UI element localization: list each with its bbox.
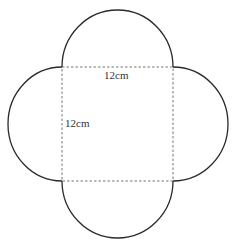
quatrefoil-figure [0,0,233,243]
right-semicircle [173,67,228,181]
left-side-label: 12cm [65,117,89,129]
bottom-semicircle [62,181,173,238]
top-semicircle [62,10,173,67]
left-semicircle [8,67,62,181]
top-side-label: 12cm [104,69,128,81]
diagram-canvas: 12cm 12cm [0,0,233,243]
